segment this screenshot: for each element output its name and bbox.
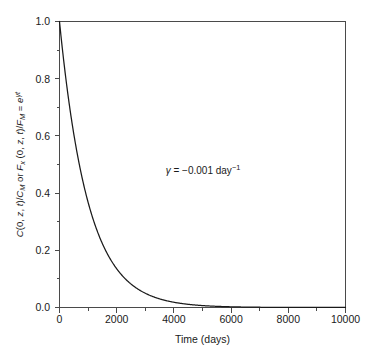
figure-canvas: 0 2000 4000 6000 8000 10000 0.0 0.2 0.4 … (0, 0, 376, 359)
y-tick-label: 0.6 (35, 130, 50, 142)
ylabel-seg: = (14, 103, 25, 114)
ylabel-seg: C (14, 230, 25, 237)
x-tick-label: 6000 (219, 313, 243, 325)
annot-value: −0.001 (182, 165, 213, 176)
ylabel-seg: (0, (14, 145, 25, 162)
ylabel-seg: C (14, 191, 25, 198)
y-tick-label: 1.0 (35, 15, 50, 27)
decay-rate-annotation: γ = −0.001 day−1 (166, 163, 241, 176)
x-tick-label: 2000 (105, 313, 129, 325)
y-tick-labels: 0.0 0.2 0.4 0.6 0.8 1.0 (35, 15, 50, 313)
x-tick-label: 4000 (162, 313, 186, 325)
y-tick-label: 0.4 (35, 187, 50, 199)
annot-equals: = (171, 165, 182, 176)
ylabel-seg: t (13, 91, 22, 94)
y-tick-label: 0.2 (35, 244, 50, 256)
annot-exponent: −1 (232, 163, 240, 172)
x-tick-label: 0 (57, 313, 63, 325)
x-tick-labels: 0 2000 4000 6000 8000 10000 (57, 313, 361, 325)
y-tick-label: 0.0 (35, 301, 50, 313)
annot-unit: day (213, 165, 232, 176)
ylabel-seg: (0, (14, 216, 25, 230)
svg-text:C(0, z, t)/CM or Fx (0, z, t)/: C(0, z, t)/CM or Fx (0, z, t)/FM = eγt (13, 91, 28, 237)
chart-plot: 0 2000 4000 6000 8000 10000 0.0 0.2 0.4 … (0, 0, 376, 359)
y-tick-label: 0.8 (35, 73, 50, 85)
x-tick-label: 8000 (277, 313, 301, 325)
ylabel-seg: or (14, 171, 25, 185)
y-axis-title: C(0, z, t)/CM or Fx (0, z, t)/FM = eγt (13, 91, 28, 237)
x-tick-label: 10000 (331, 313, 360, 325)
x-axis-title: Time (days) (175, 333, 230, 345)
